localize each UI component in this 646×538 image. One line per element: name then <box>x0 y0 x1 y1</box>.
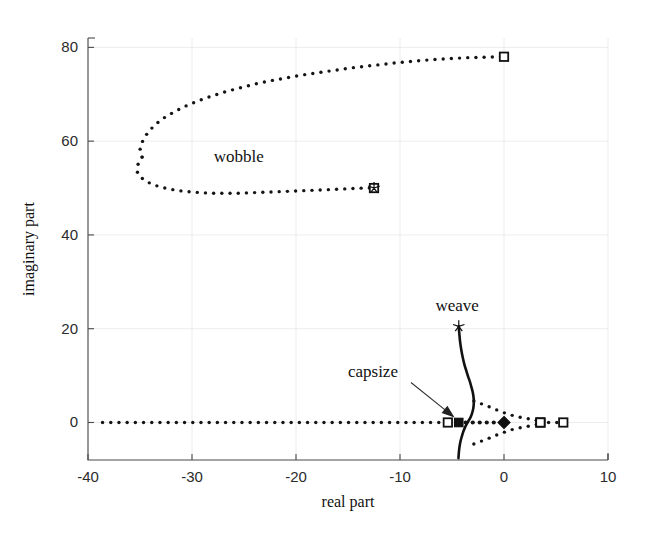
data-point <box>319 71 322 74</box>
data-point <box>302 189 305 192</box>
data-point <box>441 57 444 60</box>
marker-weave-dotted-lower-branch-end <box>536 418 544 426</box>
data-point <box>231 88 234 91</box>
data-point <box>429 421 432 424</box>
data-point <box>279 77 282 80</box>
data-point <box>485 420 489 424</box>
x-axis-title: real part <box>322 493 375 511</box>
data-point <box>175 421 178 424</box>
data-point <box>255 82 258 85</box>
data-point <box>287 76 290 79</box>
data-point <box>228 192 231 195</box>
y-tick-label: 60 <box>61 132 78 149</box>
data-point <box>412 421 415 424</box>
data-point <box>335 68 338 71</box>
data-point <box>273 421 276 424</box>
data-point <box>510 414 513 417</box>
data-point <box>495 408 498 411</box>
data-point <box>480 402 483 405</box>
y-tick-label: 0 <box>70 413 78 430</box>
data-point <box>464 420 468 424</box>
x-tick-label: -10 <box>389 468 411 485</box>
data-point <box>295 74 298 77</box>
data-point <box>343 187 346 190</box>
data-point <box>240 421 243 424</box>
data-point <box>433 58 436 61</box>
data-point <box>101 421 104 424</box>
data-point <box>200 98 203 101</box>
data-point <box>478 420 482 424</box>
data-point <box>281 421 284 424</box>
data-point <box>141 140 144 143</box>
data-point <box>344 67 347 70</box>
data-point <box>148 181 151 184</box>
data-point <box>355 421 358 424</box>
marker-wobble-upper-branch-end <box>500 53 508 61</box>
data-point <box>527 417 530 420</box>
data-point <box>450 57 453 60</box>
data-point <box>158 421 161 424</box>
data-point <box>166 421 169 424</box>
data-point <box>192 101 195 104</box>
data-point <box>248 421 251 424</box>
data-point <box>163 116 166 119</box>
x-tick-label: -20 <box>285 468 307 485</box>
data-point <box>220 192 223 195</box>
data-point <box>215 93 218 96</box>
data-point <box>437 421 440 424</box>
tick-labels-group: 020406080-40-30-20-10010 <box>61 38 616 485</box>
data-point <box>404 421 407 424</box>
data-point <box>380 421 383 424</box>
data-point <box>388 421 391 424</box>
annotations-group: wobbleweavecapsize <box>214 147 479 417</box>
data-point <box>145 133 148 136</box>
data-point <box>335 188 338 191</box>
data-point <box>253 191 256 194</box>
eigenvalue-plot-figure: 020406080-40-30-20-10010 wobbleweavecaps… <box>0 0 646 538</box>
data-point <box>503 411 506 414</box>
data-point <box>401 60 404 63</box>
data-point <box>310 189 313 192</box>
data-point <box>409 60 412 63</box>
data-point <box>471 420 475 424</box>
data-point <box>311 72 314 75</box>
annotation-label-weave: weave <box>435 296 478 315</box>
data-point <box>177 108 180 111</box>
data-point <box>322 421 325 424</box>
data-point <box>232 421 235 424</box>
x-tick-label: 0 <box>500 468 508 485</box>
marker-capsize-real-axis-branch-end <box>498 416 510 428</box>
data-point <box>140 155 143 158</box>
data-point <box>224 421 227 424</box>
data-point <box>286 190 289 193</box>
data-point <box>196 191 199 194</box>
data-point <box>487 405 490 408</box>
data-point <box>207 421 210 424</box>
data-point <box>492 420 496 424</box>
data-point <box>480 439 483 442</box>
data-point <box>170 112 173 115</box>
data-point <box>265 421 268 424</box>
data-point <box>294 189 297 192</box>
data-point <box>150 421 153 424</box>
y-tick-label: 80 <box>61 38 78 55</box>
y-tick-label: 20 <box>61 320 78 337</box>
data-point <box>327 188 330 191</box>
data-point <box>351 187 354 190</box>
data-point <box>109 421 112 424</box>
data-point <box>257 421 260 424</box>
data-point <box>368 64 371 67</box>
data-point <box>223 90 226 93</box>
data-point <box>347 421 350 424</box>
data-point <box>179 189 182 192</box>
y-tick-label: 40 <box>61 226 78 243</box>
data-point <box>384 62 387 65</box>
data-point <box>472 399 475 402</box>
marker-capsize-real-axis-branch-start <box>455 418 463 426</box>
data-point <box>314 421 317 424</box>
data-point <box>245 191 248 194</box>
data-point <box>360 65 363 68</box>
annotation-arrow-head <box>442 406 455 418</box>
data-point <box>134 421 137 424</box>
data-point <box>472 442 475 445</box>
